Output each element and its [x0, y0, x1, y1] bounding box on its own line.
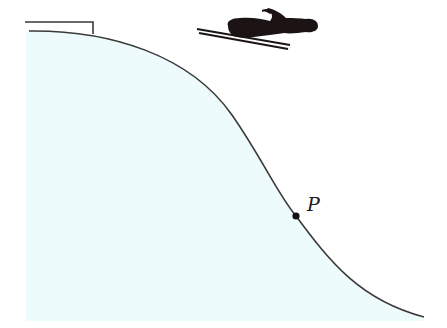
hill-region: [26, 31, 424, 321]
ski-jump-diagram: P: [0, 0, 447, 328]
point-p-label: P: [306, 193, 321, 215]
skier-icon: [197, 8, 318, 49]
point-p-marker: [292, 212, 299, 219]
